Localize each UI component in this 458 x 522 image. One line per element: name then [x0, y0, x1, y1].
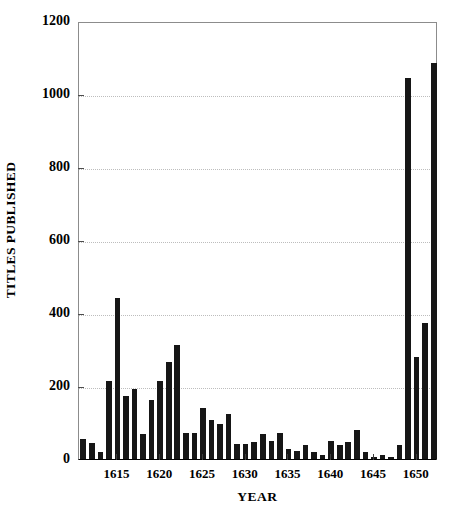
x-axis-tick-mark [287, 454, 288, 460]
bar [303, 445, 309, 459]
bar [80, 439, 86, 459]
bar [388, 457, 394, 459]
bar [311, 452, 317, 459]
y-axis-title-text: TITLES PUBLISHED [3, 162, 19, 299]
x-axis-tick-label: 1640 [317, 466, 343, 482]
x-axis-tick-label: 1650 [403, 466, 429, 482]
x-axis-tick-label: 1645 [360, 466, 386, 482]
x-axis-tick-mark [330, 454, 331, 460]
bar [397, 445, 403, 459]
plot-area [78, 22, 437, 460]
y-axis-tick-mark [78, 95, 84, 96]
bar [149, 400, 155, 460]
bar [89, 443, 95, 459]
bar [226, 414, 232, 459]
bar [354, 430, 360, 459]
bar [192, 433, 198, 459]
x-axis-tick-mark [202, 454, 203, 460]
y-axis-tick-mark [78, 314, 84, 315]
y-axis-tick-mark [78, 387, 84, 388]
y-axis-tick-label: 400 [18, 305, 70, 321]
x-axis-tick-label: 1630 [232, 466, 258, 482]
bar [209, 420, 215, 459]
bar [363, 452, 369, 459]
bar [200, 408, 206, 459]
bar-series [79, 23, 436, 459]
bar [132, 389, 138, 459]
y-axis-tick-label: 200 [18, 378, 70, 394]
x-axis-tick-label: 1625 [189, 466, 215, 482]
bar [106, 381, 112, 459]
y-axis-tick-label: 0 [18, 451, 70, 467]
bar [140, 434, 146, 459]
x-axis-tick-label: 1620 [146, 466, 172, 482]
bar [157, 381, 163, 459]
bar [123, 396, 129, 459]
chart-figure: TITLES PUBLISHED 020040060080010001200 1… [0, 0, 458, 522]
bar [166, 362, 172, 459]
bar [431, 63, 437, 459]
x-axis-tick-label: 1615 [103, 466, 129, 482]
bar [234, 444, 240, 459]
bar [217, 424, 223, 459]
bar [174, 345, 180, 459]
y-axis-tick-label: 1200 [18, 13, 70, 29]
x-axis-tick-mark [116, 454, 117, 460]
bar [422, 323, 428, 459]
bar [98, 452, 104, 459]
bar [277, 433, 283, 459]
bar [260, 434, 266, 459]
x-axis-tick-mark [373, 454, 374, 460]
x-axis-tick-mark [416, 454, 417, 460]
bar [269, 441, 275, 459]
y-axis-tick-mark [78, 168, 84, 169]
bar [405, 78, 411, 459]
y-axis-tick-label: 600 [18, 232, 70, 248]
x-axis-tick-label: 1635 [274, 466, 300, 482]
bar [320, 455, 326, 459]
x-axis-tick-mark [245, 454, 246, 460]
bar [251, 442, 257, 459]
bar [115, 298, 121, 459]
y-axis-tick-label: 800 [18, 159, 70, 175]
bar [183, 433, 189, 459]
bar [380, 455, 386, 459]
y-axis-tick-mark [78, 241, 84, 242]
bar [294, 451, 300, 459]
bar [345, 442, 351, 459]
y-axis-tick-label: 1000 [18, 86, 70, 102]
x-axis-title: YEAR [78, 489, 437, 505]
bar [337, 445, 343, 459]
x-axis-tick-mark [159, 454, 160, 460]
bar [414, 357, 420, 459]
